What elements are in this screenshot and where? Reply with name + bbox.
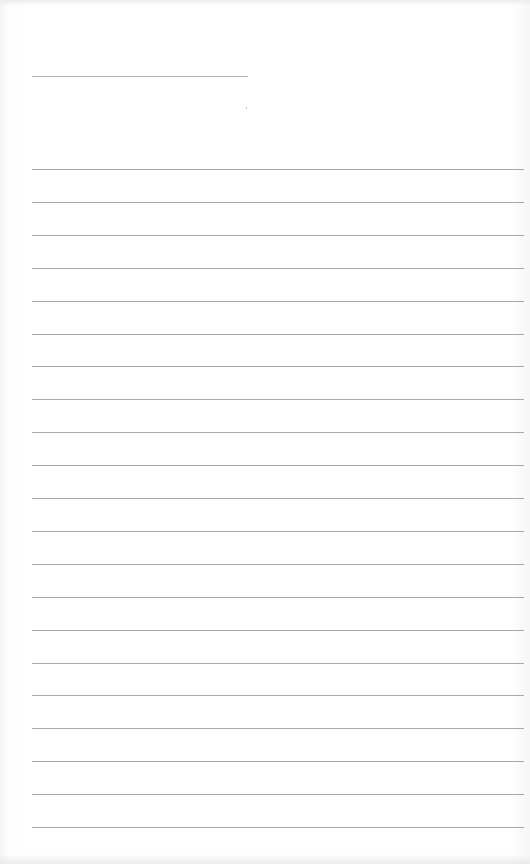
ruled-line (32, 794, 524, 795)
paper-speck (246, 107, 247, 109)
ruled-line (32, 399, 524, 400)
ruled-line (32, 432, 524, 433)
paper-bottom-edge-shadow (0, 854, 530, 864)
ruled-line (32, 630, 524, 631)
title-underline (32, 76, 248, 77)
ruled-line (32, 301, 524, 302)
ruled-line (32, 531, 524, 532)
ruled-line (32, 761, 524, 762)
ruled-line (32, 235, 524, 236)
ruled-line (32, 827, 524, 828)
ruled-line (32, 202, 524, 203)
ruled-line (32, 597, 524, 598)
ruled-line (32, 334, 524, 335)
ruled-line (32, 169, 524, 170)
ruled-line (32, 564, 524, 565)
ruled-line (32, 695, 524, 696)
ruled-line (32, 268, 524, 269)
ruled-line (32, 366, 524, 367)
ruled-line (32, 498, 524, 499)
paper-top-edge-shadow (0, 0, 530, 6)
ruled-line (32, 465, 524, 466)
ruled-line (32, 663, 524, 664)
lined-paper-sheet (0, 0, 530, 864)
ruled-line (32, 728, 524, 729)
